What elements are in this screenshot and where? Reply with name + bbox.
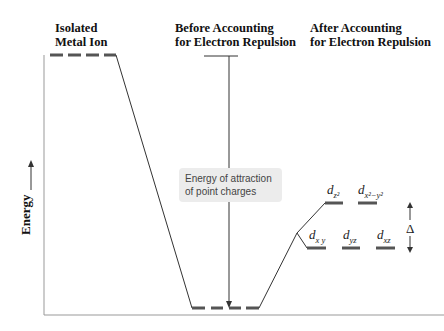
label-dx2y2: dx²−y²: [358, 182, 383, 200]
label-dxy: dx y: [309, 227, 325, 245]
attraction-callout: Energy of attraction of point charges: [179, 168, 282, 202]
delta-down-arrow-icon: [407, 247, 413, 253]
label-dyz: dyz: [343, 227, 357, 245]
label-dxz: dxz: [377, 227, 391, 245]
y-axis-label: Energy: [18, 195, 34, 235]
splitting-label: Δ: [406, 221, 414, 237]
energy-arrow-icon: [28, 160, 34, 167]
energy-diagram: [0, 0, 444, 331]
delta-up-arrow-icon: [407, 202, 413, 208]
connector-up: [259, 233, 297, 308]
label-dz2: dz²: [327, 182, 339, 200]
